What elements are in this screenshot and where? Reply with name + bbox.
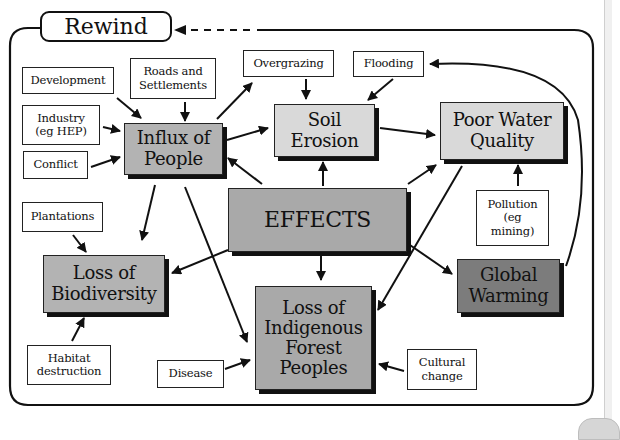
effect-label: Influx of People [137, 128, 210, 169]
cause-industry: Industry (eg HEP) [22, 105, 100, 145]
effects-title: EFFECTS [264, 207, 371, 232]
effect-label: Poor Water Quality [453, 110, 552, 151]
cause-label: Overgrazing [253, 57, 323, 70]
effect-loss-of-indigenous-forest-peoples[interactable]: Loss of Indigenous Forest Peoples [255, 286, 372, 390]
cause-habitat-destruction: Habitat destruction [27, 345, 111, 385]
cause-development: Development [22, 67, 114, 94]
cause-label: Conflict [33, 158, 77, 171]
effect-label: Soil Erosion [291, 110, 359, 151]
cause-label: Pollution (eg mining) [488, 198, 538, 238]
cause-pollution: Pollution (eg mining) [476, 190, 549, 246]
effect-influx-of-people[interactable]: Influx of People [124, 123, 223, 175]
rewind-label: Rewind [64, 14, 148, 39]
cause-plantations: Plantations [22, 202, 103, 232]
effect-global-warming[interactable]: Global Warming [457, 259, 560, 313]
effect-loss-of-biodiversity[interactable]: Loss of Biodiversity [43, 255, 165, 313]
cause-conflict: Conflict [23, 151, 88, 179]
cause-label: Cultural change [419, 356, 465, 382]
effect-label: Loss of Indigenous Forest Peoples [264, 298, 362, 377]
cause-disease: Disease [157, 360, 224, 388]
effect-label: Global Warming [468, 265, 548, 306]
cause-label: Development [31, 74, 106, 87]
cause-label: Habitat destruction [37, 352, 101, 378]
cause-label: Industry (eg HEP) [35, 112, 86, 138]
cause-flooding: Flooding [353, 51, 424, 77]
effect-soil-erosion[interactable]: Soil Erosion [274, 104, 375, 157]
effect-label: Loss of Biodiversity [51, 263, 156, 304]
effects-center[interactable]: EFFECTS [228, 188, 407, 252]
cause-label: Plantations [31, 210, 95, 223]
cause-label: Roads and Settlements [139, 65, 207, 91]
cause-label: Disease [169, 367, 213, 380]
cause-overgrazing: Overgrazing [243, 50, 334, 77]
cause-roads-settlements: Roads and Settlements [130, 58, 216, 99]
cause-label: Flooding [364, 57, 414, 70]
rewind-button[interactable]: Rewind [40, 11, 172, 42]
effect-poor-water-quality[interactable]: Poor Water Quality [440, 102, 564, 160]
cause-cultural-change: Cultural change [407, 349, 477, 390]
